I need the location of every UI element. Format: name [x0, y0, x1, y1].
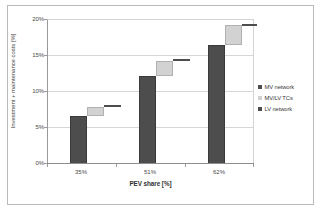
chart-legend: MV network MV/LV TCs LV network — [258, 82, 312, 115]
bar-lv-network-35 — [104, 105, 121, 107]
legend-swatch-icon-mv-network — [258, 85, 262, 89]
bar-mv-network-51 — [139, 76, 156, 164]
y-tick-label-15: 15% — [18, 52, 44, 59]
y-tick-label-0: 0% — [18, 160, 44, 167]
y-tick-label-20: 20% — [18, 16, 44, 23]
legend-label-mvlv-tcs: MV/LV TCs — [265, 95, 293, 101]
bar-lv-network-51 — [173, 59, 190, 61]
x-tick-label-51: 51% — [127, 168, 173, 176]
bar-mv-network-35 — [70, 116, 87, 164]
chart-figure: Investment + maintenance costs [%] 20% 1… — [0, 0, 322, 211]
x-tick-label-35: 35% — [58, 168, 104, 176]
y-tick-label-10: 10% — [18, 88, 44, 95]
legend-item-lv-network: LV network — [258, 104, 312, 113]
x-tick-label-62: 62% — [196, 168, 242, 176]
legend-label-mv-network: MV network — [265, 84, 295, 90]
bar-mv-network-62 — [208, 45, 225, 164]
bar-lv-network-62 — [242, 24, 257, 26]
x-axis-title: PEV share [%] — [47, 180, 254, 187]
plot-area — [47, 19, 254, 163]
y-axis-ticks: 20% 15% 10% 5% 0% — [14, 0, 44, 211]
legend-swatch-icon-lv-network — [258, 107, 262, 111]
bar-mvlv-tcs-35 — [87, 107, 104, 116]
x-tick-mark-left — [47, 164, 48, 167]
legend-item-mv-network: MV network — [258, 82, 312, 91]
bar-mvlv-tcs-62 — [225, 25, 242, 45]
legend-label-lv-network: LV network — [265, 106, 293, 112]
x-tick-mark-1 — [116, 164, 117, 167]
y-tick-label-5: 5% — [18, 124, 44, 131]
legend-swatch-icon-mvlv-tcs — [258, 96, 262, 100]
x-axis-line — [47, 163, 254, 164]
x-tick-mark-2 — [185, 164, 186, 167]
x-tick-mark-right — [253, 164, 254, 167]
bar-mvlv-tcs-51 — [156, 61, 173, 76]
legend-item-mvlv-tcs: MV/LV TCs — [258, 93, 312, 102]
